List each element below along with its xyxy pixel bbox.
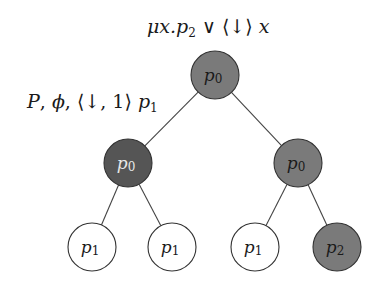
node-leaf1: p1: [68, 223, 116, 271]
node-root: p0: [191, 51, 239, 99]
root-formula-label: μx.p2 ∨ ⟨↓⟩ x: [147, 15, 270, 40]
node-leaf2: p1: [148, 223, 196, 271]
node-left: p0: [104, 139, 152, 187]
edge-root-right: [231, 92, 281, 145]
node-leaf4: p2: [313, 223, 361, 271]
left-formula-label: P, ϕ, ⟨↓, 1⟩ p1: [26, 90, 158, 115]
edge-right-leaf4: [308, 185, 327, 225]
edge-left-leaf2: [139, 184, 161, 225]
node-right: p0: [274, 139, 322, 187]
tree-diagram: p0p0p0p1p1p1p2 μx.p2 ∨ ⟨↓⟩ x P, ϕ, ⟨↓, 1…: [0, 0, 387, 294]
edge-right-leaf3: [266, 184, 287, 225]
node-leaf3: p1: [231, 223, 279, 271]
edge-left-leaf1: [101, 185, 118, 225]
nodes-group: p0p0p0p1p1p1p2: [68, 51, 361, 271]
